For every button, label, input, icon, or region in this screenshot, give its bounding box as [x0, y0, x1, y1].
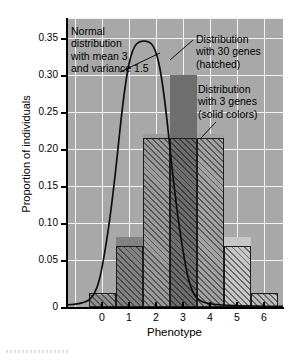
annotation-line: and variance 1.5	[71, 62, 166, 74]
hatched-bar-2	[143, 138, 170, 307]
y-tick-label: 0.15	[39, 181, 58, 191]
annotation-thirty-genes: Distribution with 30 genes (hatched)	[196, 33, 296, 70]
annotation-line: with 3 genes	[198, 95, 298, 107]
y-tick-mark	[61, 186, 66, 188]
x-tick-label: 5	[227, 311, 247, 323]
y-tick-mark	[61, 307, 66, 309]
x-tick-mark	[101, 302, 103, 308]
y-axis-title: Proportion of individuals	[20, 64, 32, 244]
y-tick-mark	[61, 223, 66, 225]
x-tick-label: 2	[146, 311, 166, 323]
y-axis-line	[66, 18, 68, 308]
y-tick-mark	[61, 75, 66, 77]
hatched-bar-5	[224, 246, 251, 307]
hatched-bar-3	[170, 138, 197, 307]
annotation-line: with 30 genes	[196, 45, 296, 57]
annotation-normal-distribution: Normal distribution with mean 3 and vari…	[71, 25, 166, 75]
y-tick-mark	[61, 38, 66, 40]
x-axis-line	[66, 307, 284, 309]
x-tick-mark	[182, 302, 184, 308]
x-tick-label: 3	[173, 311, 193, 323]
annotation-line: with mean 3	[71, 50, 166, 62]
annotation-line: distribution	[71, 37, 166, 49]
y-tick-label: 0	[52, 302, 58, 312]
x-tick-label: 1	[119, 311, 139, 323]
figure-container: 0.35 0.30 0.25 0.20 0.15 0.10 0.05 0 0 1…	[0, 0, 299, 361]
x-axis-title: Phenotype	[66, 326, 283, 338]
y-tick-label: 0.20	[39, 144, 58, 154]
y-tick-mark	[61, 112, 66, 114]
x-tick-mark	[263, 302, 265, 308]
y-tick-label: 0.10	[39, 218, 58, 228]
x-tick-mark	[209, 302, 211, 308]
x-tick-mark	[236, 302, 238, 308]
annotation-line: Distribution	[198, 83, 298, 95]
annotation-three-genes: Distribution with 3 genes (solid colors)	[198, 83, 298, 120]
gridline-horizontal	[66, 18, 283, 19]
y-tick-label: 0.35	[39, 33, 58, 43]
y-tick-mark	[61, 260, 66, 262]
annotation-line: (solid colors)	[198, 108, 298, 120]
x-tick-label: 6	[254, 311, 274, 323]
annotation-line: (hatched)	[196, 58, 296, 70]
annotation-line: Distribution	[196, 33, 296, 45]
x-tick-mark	[128, 302, 130, 308]
x-tick-mark	[155, 302, 157, 308]
x-tick-label: 0	[92, 311, 112, 323]
y-tick-mark	[61, 149, 66, 151]
x-tick-label: 4	[200, 311, 220, 323]
scan-artifact	[6, 350, 68, 353]
annotation-line: Normal	[71, 25, 166, 37]
y-tick-label: 0.25	[39, 107, 58, 117]
y-tick-label: 0.05	[39, 255, 58, 265]
hatched-bar-4	[197, 138, 224, 307]
hatched-bar-1	[116, 246, 143, 307]
y-tick-label: 0.30	[39, 70, 58, 80]
